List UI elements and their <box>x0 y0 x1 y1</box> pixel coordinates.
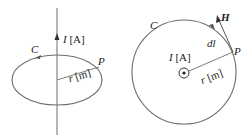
right-current-label: I [A] <box>169 52 191 63</box>
left-point-label: P <box>98 56 105 67</box>
current-unit: [A] <box>175 51 190 63</box>
current-var: I <box>169 51 173 63</box>
current-unit: [A] <box>69 33 84 45</box>
left-current-label: I [A] <box>63 34 85 45</box>
current-dot-icon <box>182 71 185 74</box>
current-arrow-icon <box>55 33 60 40</box>
right-contour-label: C <box>150 20 157 31</box>
left-contour-label: C <box>31 44 38 55</box>
right-point-label: P <box>234 46 241 57</box>
right-element-label: dl <box>207 38 216 49</box>
current-var: I <box>63 33 67 45</box>
right-field-label: H <box>221 12 230 23</box>
radius-line <box>189 52 233 71</box>
